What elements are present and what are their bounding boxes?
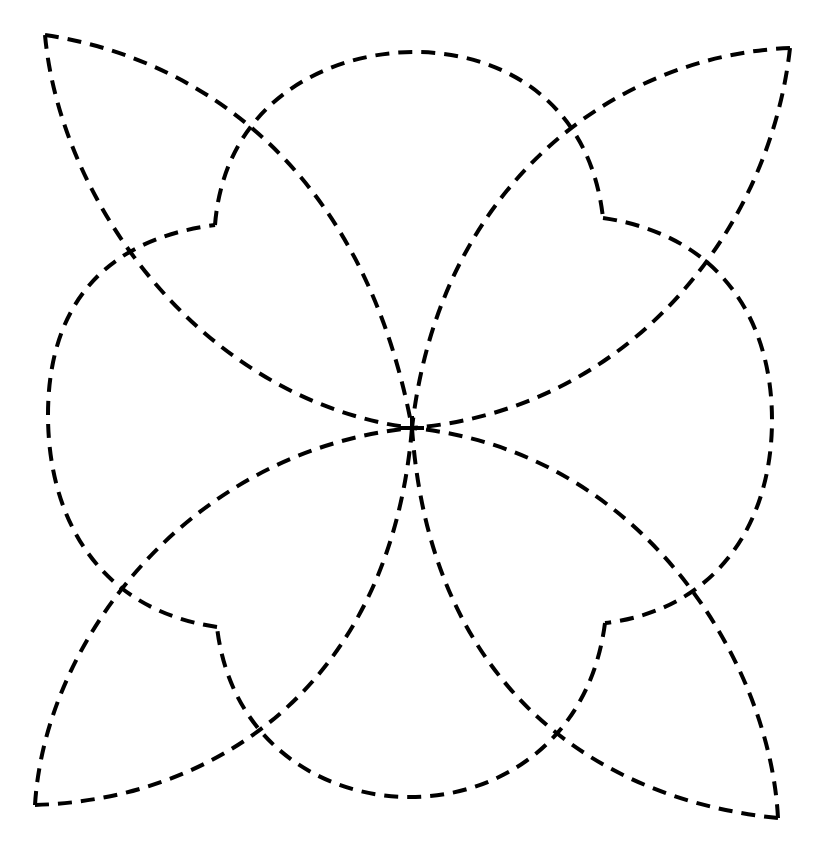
center-plus-icon xyxy=(400,416,424,440)
leaf-top-left xyxy=(45,35,412,428)
ring-lobe-bottom xyxy=(217,623,605,797)
leaf-bottom-left-edge-b xyxy=(35,428,412,805)
leaf-bottom-right xyxy=(412,428,778,818)
leaf-bottom-left-edge-a xyxy=(35,428,412,805)
leaf-top-left-edge-b xyxy=(45,35,412,428)
ring-lobe-right xyxy=(603,218,772,623)
leaf-top-left-edge-a xyxy=(45,35,412,428)
quilt-template-diagram xyxy=(0,0,818,842)
ring-lobe-top xyxy=(215,52,603,225)
leaf-bottom-right-edge-b xyxy=(412,428,778,818)
ring-lobe-left xyxy=(48,225,217,627)
leaf-top-right xyxy=(412,48,790,428)
leaf-top-right-edge-b xyxy=(412,48,790,428)
leaf-bottom-left xyxy=(35,428,412,805)
leaf-top-right-edge-a xyxy=(412,48,790,428)
